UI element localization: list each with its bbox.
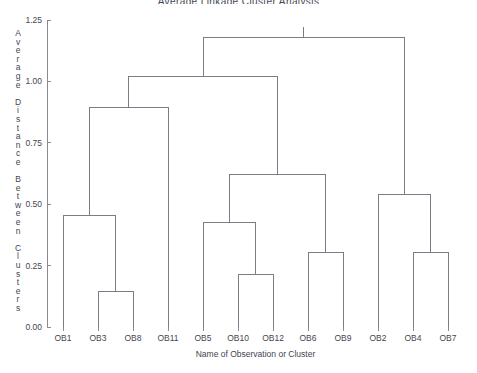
dendrogram-link <box>63 215 116 327</box>
y-tick-label: 1.25 <box>25 15 42 25</box>
dendrogram-link <box>89 107 168 327</box>
x-tick-label: OB8 <box>124 333 141 343</box>
x-tick-label: OB3 <box>89 333 106 343</box>
dendrogram-link <box>129 76 278 174</box>
x-tick-label: OB5 <box>194 333 211 343</box>
x-tick-label: OB7 <box>439 333 456 343</box>
dendrogram-link <box>229 175 325 252</box>
dendrogram-link <box>203 223 256 327</box>
y-tick-label: 0.75 <box>25 138 42 148</box>
dendrogram-link <box>238 274 273 327</box>
x-tick-label: OB4 <box>404 333 421 343</box>
x-tick-label: OB2 <box>369 333 386 343</box>
y-tick-label: 0.00 <box>25 322 42 332</box>
y-axis-title-char: n <box>16 226 21 236</box>
dendrogram-link <box>98 291 133 327</box>
y-tick-label: 0.50 <box>25 199 42 209</box>
dendrogram-plot-area: 1.251.000.750.500.250.00AverageDistanceB… <box>0 0 477 373</box>
x-axis-title: Name of Observation or Cluster <box>196 349 316 359</box>
x-tick-label: OB1 <box>54 333 71 343</box>
x-tick-label: OB9 <box>334 333 351 343</box>
y-axis-title-char: s <box>16 303 20 313</box>
dendrogram-link <box>413 252 448 327</box>
x-tick-label: OB11 <box>157 333 178 343</box>
dendrogram-link <box>308 252 343 327</box>
x-tick-label: OB6 <box>299 333 316 343</box>
dendrogram-link <box>378 194 431 327</box>
y-tick-label: 1.00 <box>25 76 42 86</box>
x-tick-label: OB10 <box>227 333 249 343</box>
y-axis-title-char: e <box>16 157 21 167</box>
x-tick-label: OB12 <box>262 333 284 343</box>
dendrogram-chart: Average Linkage Cluster Analysis 1.251.0… <box>0 0 477 373</box>
y-tick-label: 0.25 <box>25 261 42 271</box>
y-axis-title-char: e <box>16 80 21 90</box>
dendrogram-link <box>203 37 404 194</box>
